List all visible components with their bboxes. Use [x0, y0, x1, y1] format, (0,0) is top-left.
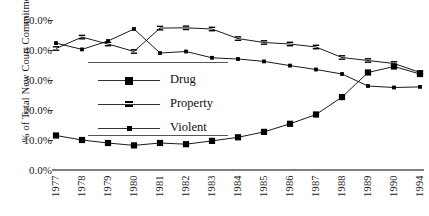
line-chart: % of Total New Court Commitments 50.0%40…: [0, 0, 429, 216]
y-axis-tick: 10.0%: [0, 135, 52, 146]
y-axis-tick-dash: [48, 80, 53, 81]
data-point-marker: [80, 48, 84, 52]
data-point-marker: [53, 50, 59, 51]
x-axis-tick-label: 1987: [310, 175, 323, 215]
legend-marker-violent-icon: [127, 126, 132, 131]
x-axis-tick-label: 1990: [388, 175, 401, 215]
data-point-marker: [261, 129, 267, 135]
x-axis-tick-label: 1984: [232, 175, 245, 215]
x-axis-tick-label: 1979: [102, 175, 115, 215]
data-point-marker: [158, 51, 162, 55]
data-point-marker: [209, 27, 215, 28]
data-point-marker: [79, 35, 85, 36]
data-point-marker: [157, 29, 163, 30]
y-axis-tick-label: 50.0%: [6, 15, 52, 26]
data-point-marker: [157, 26, 163, 27]
data-point-marker: [105, 140, 111, 146]
data-point-marker: [287, 121, 293, 127]
y-axis-tick-label: 0.0%: [6, 165, 52, 176]
data-point-marker: [418, 85, 422, 89]
legend-label-property: Property: [170, 96, 213, 111]
data-point-marker: [54, 41, 58, 45]
y-axis-tick: 50.0%: [0, 15, 52, 26]
data-point-marker: [235, 36, 241, 37]
data-point-marker: [391, 65, 397, 66]
data-point-marker: [132, 27, 136, 31]
y-axis-tick: 40.0%: [0, 45, 52, 56]
legend-item-drug[interactable]: Drug: [88, 70, 228, 90]
data-point-marker: [417, 70, 423, 71]
x-axis-tick-label: 1980: [128, 175, 141, 215]
data-point-marker: [365, 69, 371, 75]
y-axis-tick-label: 20.0%: [6, 105, 52, 116]
y-axis-tick: 30.0%: [0, 75, 52, 86]
data-point-marker: [183, 25, 189, 26]
data-point-marker: [262, 60, 266, 64]
y-axis-tick-label: 40.0%: [6, 45, 52, 56]
data-point-marker: [53, 132, 59, 138]
data-point-marker: [339, 59, 345, 60]
data-point-marker: [183, 141, 189, 147]
data-point-marker: [209, 30, 215, 31]
x-axis-tick-label: 1986: [284, 175, 297, 215]
legend-marker-property-icon: [125, 101, 133, 108]
data-point-marker: [131, 142, 137, 148]
data-point-marker: [365, 62, 371, 63]
data-point-marker: [210, 56, 214, 60]
legend-label-drug: Drug: [170, 72, 196, 87]
data-point-marker: [157, 140, 163, 146]
data-point-marker: [105, 45, 111, 46]
y-axis-tick-dash: [48, 140, 53, 141]
data-point-marker: [340, 72, 344, 76]
y-axis-tick: 0.0%: [0, 165, 52, 176]
legend-item-property[interactable]: Property: [88, 94, 228, 114]
x-axis-tick-label: 1983: [206, 175, 219, 215]
data-point-marker: [235, 134, 241, 140]
data-point-marker: [391, 61, 397, 62]
data-point-marker: [79, 38, 85, 39]
y-axis-tick-label: 30.0%: [6, 75, 52, 86]
legend-marker-drug-icon: [125, 77, 133, 85]
data-point-marker: [339, 55, 345, 56]
data-point-marker: [288, 64, 292, 68]
x-axis-tick-label: 1988: [336, 175, 349, 215]
x-axis-tick-label: 1985: [258, 175, 271, 215]
data-point-marker: [235, 40, 241, 41]
x-axis-tick-label: 1978: [76, 175, 89, 215]
data-point-marker: [106, 39, 110, 43]
data-point-marker: [417, 74, 423, 75]
data-point-marker: [313, 48, 319, 49]
x-axis-tick-label: 1982: [180, 175, 193, 215]
data-point-marker: [209, 138, 215, 144]
data-point-marker: [287, 45, 293, 46]
x-axis-tick-label: 1989: [362, 175, 375, 215]
x-axis-tick-label: 1981: [154, 175, 167, 215]
data-point-marker: [365, 58, 371, 59]
data-point-marker: [184, 50, 188, 54]
data-point-marker: [366, 84, 370, 88]
y-axis-tick-dash: [48, 110, 53, 111]
data-point-marker: [183, 29, 189, 30]
y-axis-tick-dash: [48, 20, 53, 21]
data-point-marker: [131, 53, 137, 54]
chart-legend: Drug Property Violent: [88, 62, 228, 136]
legend-bottom-rule: [88, 135, 228, 136]
legend-label-violent: Violent: [170, 120, 207, 135]
data-point-marker: [261, 44, 267, 45]
data-point-marker: [261, 40, 267, 41]
data-point-marker: [53, 46, 59, 47]
data-point-marker: [131, 49, 137, 50]
legend-top-rule: [88, 62, 228, 63]
data-point-marker: [339, 94, 345, 100]
data-point-marker: [287, 42, 293, 43]
x-axis-tick-label: 1994: [414, 175, 427, 215]
data-point-marker: [79, 137, 85, 143]
data-point-marker: [314, 68, 318, 72]
x-axis-tick-label: 1977: [50, 175, 63, 215]
y-axis-tick-label: 10.0%: [6, 135, 52, 146]
data-point-marker: [236, 57, 240, 61]
data-point-marker: [313, 111, 319, 117]
y-axis-tick: 20.0%: [0, 105, 52, 116]
data-point-marker: [392, 86, 396, 90]
data-point-marker: [313, 45, 319, 46]
